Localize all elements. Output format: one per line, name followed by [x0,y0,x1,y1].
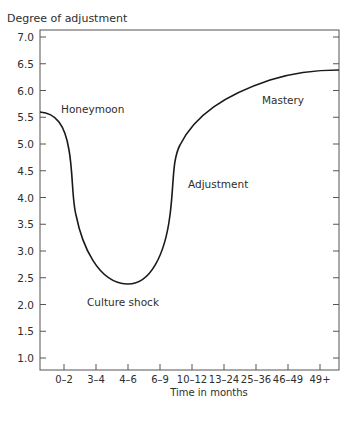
y-tick-label: 5.5 [17,111,34,123]
y-tick-label: 4.5 [17,165,34,177]
x-tick-label: 10–12 [177,374,207,385]
annotation-honeymoon: Honeymoon [61,103,124,115]
y-tick-label: 7.0 [17,31,34,43]
y-tick-label: 1.0 [17,352,34,364]
x-tick-label: 49+ [309,374,330,385]
x-tick-label: 13–24 [209,374,239,385]
y-tick-label: 3.5 [17,218,34,230]
y-tick-label: 2.5 [17,272,34,284]
x-tick-label: 46–49 [273,374,303,385]
annotation-mastery: Mastery [262,94,304,106]
annotation-culture-shock: Culture shock [87,296,160,308]
y-axis-ticks: 7.06.56.05.55.04.54.03.53.02.52.01.51.0 [17,31,339,364]
y-tick-label: 2.0 [17,299,34,311]
y-tick-label: 3.0 [17,245,34,257]
x-tick-label: 4–6 [119,374,137,385]
y-axis-title: Degree of adjustment [7,12,128,25]
x-tick-label: 6–9 [151,374,169,385]
y-tick-label: 5.0 [17,138,34,150]
x-tick-label: 0–2 [55,374,73,385]
u-curve-chart: Degree of adjustment 7.06.56.05.55.04.54… [0,0,353,424]
x-tick-label: 25–36 [241,374,271,385]
y-tick-label: 6.5 [17,58,34,70]
x-tick-label: 3–4 [87,374,105,385]
y-tick-label: 4.0 [17,192,34,204]
y-tick-label: 6.0 [17,85,34,97]
annotation-adjustment: Adjustment [188,178,248,190]
y-tick-label: 1.5 [17,325,34,337]
x-axis-title: Time in months [169,387,248,398]
x-axis-ticks: 0–23–44–66–910–1213–2425–3646–4949+ [55,364,330,385]
plot-frame [40,30,339,370]
